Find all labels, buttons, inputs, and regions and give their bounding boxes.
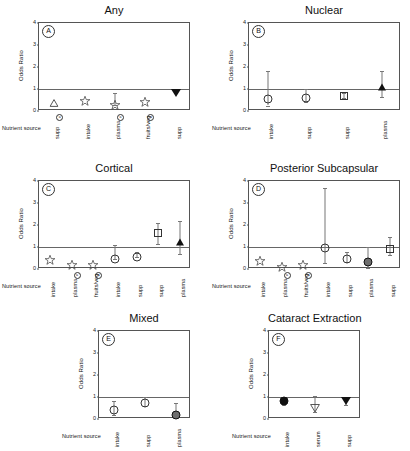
confidence-interval-cap: [174, 418, 178, 419]
confidence-interval-cap: [112, 401, 116, 402]
y-tick-label: 3: [93, 350, 99, 356]
confidence-interval-cap: [113, 259, 117, 260]
x-axis-category-label: serum: [316, 431, 322, 447]
confidence-interval-cap: [342, 93, 346, 94]
y-tick-mark: [97, 375, 100, 376]
confidence-interval-bar: [306, 89, 307, 102]
marker-star-open: [79, 96, 90, 107]
y-tick-mark: [247, 225, 250, 226]
reference-line: [39, 89, 189, 90]
footnote-marker: a: [117, 114, 124, 121]
footnote-marker: a: [147, 114, 154, 121]
y-tick-label: 2: [33, 64, 39, 70]
y-tick-mark: [267, 375, 270, 376]
confidence-interval-cap: [366, 268, 370, 269]
confidence-interval-cap: [313, 396, 317, 397]
marker-star-open: [140, 96, 151, 107]
y-tick-label: 1: [93, 394, 99, 400]
x-axis-category-label: plasma: [116, 121, 122, 139]
confidence-interval-cap: [178, 221, 182, 222]
confidence-interval-bar: [345, 397, 346, 406]
marker-circle-open: [141, 398, 150, 407]
confidence-interval-cap: [388, 237, 392, 238]
confidence-interval-bar: [284, 397, 285, 406]
y-axis-label: Odds Ratio: [228, 50, 234, 81]
confidence-interval-cap: [143, 406, 147, 407]
confidence-interval-cap: [304, 89, 308, 90]
marker-triangle-down-open: [310, 404, 320, 413]
confidence-interval-cap: [388, 255, 392, 256]
y-tick-label: 4: [93, 328, 99, 334]
x-axis-category-label: supp: [347, 435, 353, 447]
nutrient-source-label: Nutrient source: [2, 283, 41, 289]
marker-circle-open: [132, 252, 141, 261]
panel-title: Posterior Subcapsular: [248, 162, 400, 174]
y-tick-mark: [37, 67, 40, 68]
confidence-interval-bar: [175, 403, 176, 418]
reference-line: [99, 397, 189, 398]
marker-circle-open: [321, 244, 330, 253]
plot-area: 01234: [38, 22, 190, 110]
confidence-interval-cap: [178, 254, 182, 255]
confidence-interval-cap: [174, 93, 178, 94]
confidence-interval-cap: [266, 106, 270, 107]
marker-triangle-up-filled: [378, 83, 386, 90]
panel-letter-badge: C: [42, 183, 55, 196]
nutrient-source-label: Nutrient source: [232, 433, 271, 439]
x-axis-category-label: intake: [51, 282, 57, 297]
y-tick-label: 0: [33, 266, 39, 272]
y-axis-label: Odds Ratio: [18, 50, 24, 81]
footnote-marker: a: [95, 272, 102, 279]
x-axis-category-label: intake: [115, 432, 121, 447]
y-tick-label: 4: [243, 178, 249, 184]
x-axis-category-label: supp: [55, 127, 61, 139]
nutrient-source-label: Nutrient source: [212, 283, 251, 289]
panel-letter-badge: D: [252, 183, 265, 196]
nutrient-source-label: Nutrient source: [62, 433, 101, 439]
confidence-interval-bar: [158, 223, 159, 244]
reference-line: [39, 247, 189, 248]
confidence-interval-cap: [143, 397, 147, 398]
panel-letter-badge: E: [102, 333, 115, 346]
confidence-interval-bar: [136, 252, 137, 257]
footnote-marker: a: [56, 114, 63, 121]
confidence-interval-bar: [180, 221, 181, 254]
y-tick-mark: [37, 247, 40, 248]
panel-d: Posterior Subcapsular01234DOdds RatioNut…: [0, 0, 410, 451]
y-tick-label: 1: [243, 86, 249, 92]
y-tick-label: 2: [33, 222, 39, 228]
y-tick-mark: [247, 45, 250, 46]
nutrient-source-label: Nutrient source: [212, 125, 251, 131]
marker-square-open: [386, 245, 394, 253]
confidence-interval-bar: [115, 93, 116, 105]
y-tick-label: 3: [33, 42, 39, 48]
panel-a: Any01234AOdds RatioNutrient sourcesuppai…: [0, 0, 410, 451]
marker-circle-filled: [171, 410, 180, 419]
y-tick-mark: [37, 89, 40, 90]
y-tick-label: 4: [33, 20, 39, 26]
y-tick-mark: [267, 331, 270, 332]
plot-area: 01234: [38, 180, 190, 268]
marker-circle-filled: [280, 397, 289, 406]
footnote-marker: a: [305, 272, 312, 279]
reference-line: [269, 397, 359, 398]
y-tick-label: 3: [263, 350, 269, 356]
x-axis-category-label: supp: [391, 285, 397, 297]
confidence-interval-bar: [368, 247, 369, 267]
panel-title: Nuclear: [248, 4, 400, 16]
marker-square-open: [340, 92, 348, 100]
panel-e: Mixed01234EOdds RatioNutrient sourceinta…: [0, 0, 410, 451]
marker-circle-open: [342, 254, 351, 263]
panel-letter-badge: F: [272, 333, 285, 346]
confidence-interval-cap: [266, 71, 270, 72]
confidence-interval-bar: [390, 237, 391, 255]
marker-star-open: [66, 260, 77, 271]
y-tick-mark: [97, 419, 100, 420]
x-axis-category-label: supp: [345, 127, 351, 139]
y-tick-mark: [247, 23, 250, 24]
confidence-interval-cap: [342, 98, 346, 99]
marker-star-open: [110, 100, 121, 111]
x-axis-category-label: plasma: [383, 121, 389, 139]
y-tick-mark: [37, 23, 40, 24]
y-tick-mark: [247, 181, 250, 182]
